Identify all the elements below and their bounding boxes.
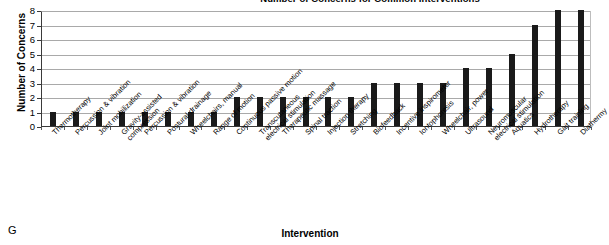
panel-letter: G xyxy=(8,224,17,236)
y-axis-tick-label: 1 xyxy=(5,108,35,117)
chart-title: Number of Concerns for Common Interventi… xyxy=(150,0,590,2)
y-axis-tick-label: 6 xyxy=(5,35,35,44)
y-axis-tick-label: 7 xyxy=(5,21,35,30)
x-axis-tick-mark xyxy=(41,127,42,130)
y-axis-tick-label: 5 xyxy=(5,50,35,59)
y-axis-tick-label: 8 xyxy=(5,6,35,15)
x-axis-title: Intervention xyxy=(180,228,440,239)
y-axis-tick-label: 2 xyxy=(5,93,35,102)
y-axis-tick-label: 0 xyxy=(5,122,35,131)
y-axis-tick-label: 4 xyxy=(5,64,35,73)
bar[interactable] xyxy=(532,25,538,127)
x-axis-category-labels: ThermotherapyPercussion & vibrationJoint… xyxy=(41,131,597,221)
y-axis-tick-label: 3 xyxy=(5,79,35,88)
bar[interactable] xyxy=(371,83,377,127)
